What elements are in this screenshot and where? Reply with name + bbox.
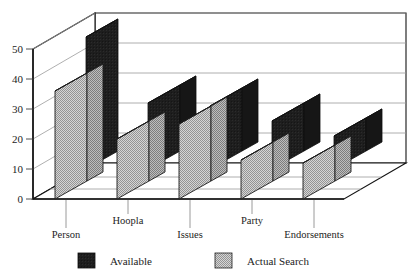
y-tick-label-30: 30 — [12, 103, 24, 115]
legend-swatch-available — [78, 253, 95, 268]
y-tick-label-10: 10 — [12, 163, 24, 175]
legend-swatch-actual-search — [215, 253, 232, 268]
x-category-label-endorsements: Endorsements — [284, 229, 344, 240]
x-axis: Person Hoopla Issues Party Endorsements — [52, 200, 344, 240]
chart-legend: Available Actual Search — [78, 253, 309, 268]
legend-label-actual-search: Actual Search — [247, 255, 309, 267]
x-category-label-issues: Issues — [177, 229, 203, 240]
x-category-label-party: Party — [241, 215, 264, 226]
chart-canvas: 50 40 30 20 10 0 — [0, 0, 414, 279]
y-tick-label-20: 20 — [12, 133, 24, 145]
x-category-label-hoopla: Hoopla — [113, 215, 144, 226]
legend-item-available: Available — [78, 253, 152, 268]
x-category-label-person: Person — [52, 229, 81, 240]
legend-label-available: Available — [110, 255, 152, 267]
bar-chart-figure: 50 40 30 20 10 0 — [0, 0, 414, 279]
y-tick-label-40: 40 — [12, 73, 24, 85]
y-tick-label-50: 50 — [12, 43, 24, 55]
y-axis: 50 40 30 20 10 0 — [12, 43, 33, 205]
y-tick-label-0: 0 — [18, 193, 24, 205]
legend-item-actual-search: Actual Search — [215, 253, 309, 268]
